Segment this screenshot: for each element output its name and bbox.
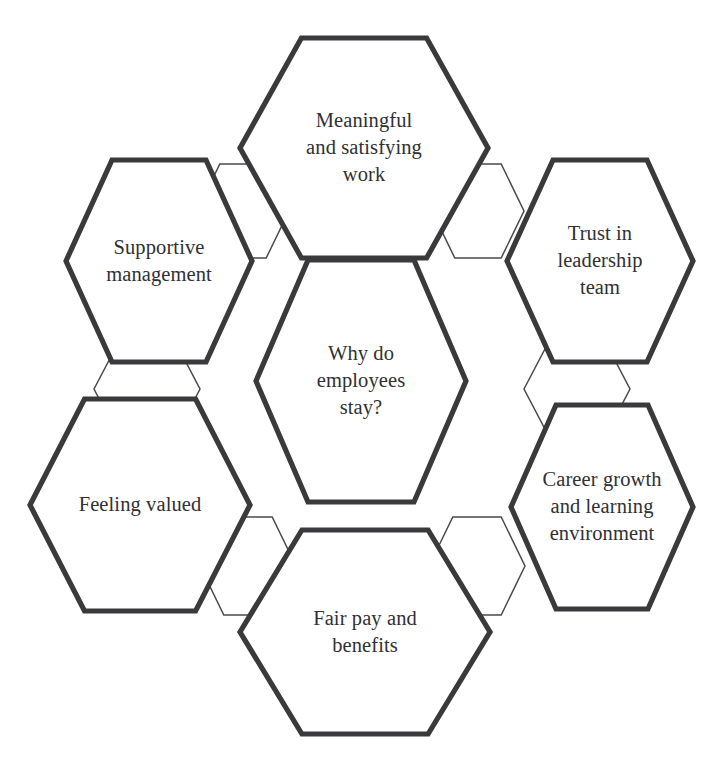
hexagon-diagram: Why do employees stay?Meaningful and sat… — [0, 0, 726, 762]
hexagon-upper-right[interactable] — [507, 160, 693, 362]
hexagon-top[interactable] — [240, 38, 488, 258]
hexagon-lower-left[interactable] — [30, 399, 250, 611]
hexagon-lower-right[interactable] — [511, 405, 693, 609]
hexagon-shapes-layer — [0, 0, 726, 762]
hexagon-bottom[interactable] — [240, 530, 490, 734]
hexagon-upper-left[interactable] — [66, 160, 252, 362]
major-hexagons — [30, 38, 693, 734]
hexagon-center[interactable] — [256, 260, 466, 502]
